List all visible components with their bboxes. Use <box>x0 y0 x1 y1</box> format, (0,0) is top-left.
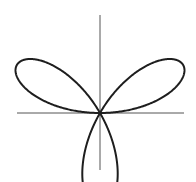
rose-curve-figure <box>0 0 196 182</box>
polar-plot <box>0 0 196 182</box>
